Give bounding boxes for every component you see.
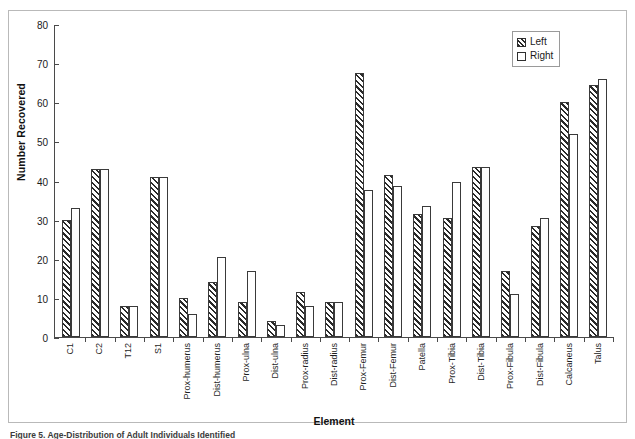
y-axis-tick: 10: [54, 299, 59, 300]
bar-left[interactable]: [238, 302, 247, 337]
bar-left[interactable]: [62, 220, 71, 337]
x-axis-label-cell: T12: [114, 341, 143, 419]
bar-right[interactable]: [334, 302, 343, 337]
bar-right[interactable]: [305, 306, 314, 337]
y-axis-tick: 30: [54, 221, 59, 222]
bar-right[interactable]: [159, 177, 168, 337]
bar-left[interactable]: [91, 169, 100, 337]
x-axis-title: Element: [54, 415, 614, 427]
bar-group: [144, 25, 173, 337]
bar-right[interactable]: [452, 182, 461, 337]
x-axis-label-cell: Prox-ulna: [231, 341, 260, 419]
bar-group: [291, 25, 320, 337]
bar-group: [349, 25, 378, 337]
x-axis-label: Patella: [418, 343, 427, 371]
bar-group: [437, 25, 466, 337]
x-axis-label-cell: Patella: [408, 341, 437, 419]
legend-item-left: Left: [517, 35, 553, 49]
bar-right[interactable]: [71, 208, 80, 337]
legend-swatch-left-icon: [517, 38, 526, 47]
bar-group: [584, 25, 613, 337]
bar-right[interactable]: [188, 314, 197, 337]
y-axis-tick-label: 40: [37, 178, 48, 188]
x-axis-label: C2: [95, 343, 104, 355]
x-axis-labels: C1C2T12S1Prox-humerusDist-humerusProx-ul…: [54, 341, 614, 419]
bar-group: [56, 25, 85, 337]
bar-right[interactable]: [364, 190, 373, 337]
x-axis-label-cell: S1: [143, 341, 172, 419]
bar-left[interactable]: [208, 282, 217, 337]
bar-left[interactable]: [120, 306, 129, 337]
bar-right[interactable]: [393, 186, 402, 337]
bar-left[interactable]: [296, 292, 305, 337]
y-axis-tick: 20: [54, 260, 59, 261]
legend-label-left: Left: [530, 37, 547, 47]
bar-right[interactable]: [129, 306, 138, 337]
x-axis-label: Dist-humerus: [212, 343, 221, 397]
x-axis-label: T12: [124, 343, 133, 359]
bar-left[interactable]: [413, 214, 422, 337]
y-axis-tick-label: 30: [37, 217, 48, 227]
y-axis-tick-label: 10: [37, 295, 48, 305]
bar-groups: [55, 25, 614, 337]
bar-left[interactable]: [560, 102, 569, 337]
x-axis-label-cell: Dist-Tibia: [466, 341, 495, 419]
bar-right[interactable]: [247, 271, 256, 338]
y-axis-tick-label: 60: [37, 99, 48, 109]
bar-group: [554, 25, 583, 337]
bar-right[interactable]: [598, 79, 607, 337]
x-axis-label-cell: Dist-ulna: [261, 341, 290, 419]
bar-left[interactable]: [472, 167, 481, 337]
bar-right[interactable]: [481, 167, 490, 337]
bar-left[interactable]: [150, 177, 159, 337]
y-axis-tick-label: 20: [37, 256, 48, 266]
bar-right[interactable]: [540, 218, 549, 337]
chart-frame: Number Recovered 01020304050607080 C1C2T…: [8, 10, 627, 423]
y-axis-tick: 0: [54, 338, 59, 339]
x-axis-label: Dist-Fibula: [535, 343, 544, 386]
bar-left[interactable]: [589, 85, 598, 337]
bar-left[interactable]: [179, 298, 188, 337]
legend-item-right: Right: [517, 49, 553, 63]
bar-group: [466, 25, 495, 337]
chart-screenshot: Number Recovered 01020304050607080 C1C2T…: [0, 0, 635, 439]
bar-group: [525, 25, 554, 337]
x-axis-label: Prox-humerus: [183, 343, 192, 400]
x-axis-label-cell: Dist-radius: [319, 341, 348, 419]
plot-area: 01020304050607080: [54, 25, 614, 338]
y-axis-tick: 70: [54, 64, 59, 65]
bar-right[interactable]: [422, 206, 431, 337]
bar-group: [378, 25, 407, 337]
x-axis-label: Prox-Femur: [359, 343, 368, 391]
x-axis-label-cell: Prox-radius: [290, 341, 319, 419]
bar-right[interactable]: [569, 134, 578, 337]
y-axis-tick: 40: [54, 182, 59, 183]
bar-left[interactable]: [325, 302, 334, 337]
y-axis-tick-label: 80: [37, 21, 48, 31]
bar-right[interactable]: [217, 257, 226, 337]
legend-swatch-right-icon: [517, 52, 526, 61]
x-axis-label-cell: Prox-Tibia: [437, 341, 466, 419]
x-axis-label-cell: Talus: [584, 341, 613, 419]
bar-group: [496, 25, 525, 337]
bar-left[interactable]: [355, 73, 364, 337]
bar-left[interactable]: [384, 175, 393, 337]
y-axis-tick-label: 70: [37, 60, 48, 70]
y-axis-title: Number Recovered: [15, 83, 27, 181]
bar-right[interactable]: [510, 294, 519, 337]
bar-group: [320, 25, 349, 337]
bar-left[interactable]: [443, 218, 452, 337]
bar-left[interactable]: [501, 271, 510, 338]
legend[interactable]: Left Right: [512, 31, 560, 67]
bar-right[interactable]: [100, 169, 109, 337]
y-axis-tick: 50: [54, 142, 59, 143]
bar-group: [203, 25, 232, 337]
bar-left[interactable]: [531, 226, 540, 338]
x-axis-label: Prox-ulna: [241, 343, 250, 382]
bar-right[interactable]: [276, 325, 285, 337]
bar-group: [85, 25, 114, 337]
x-axis-label-cell: Dist-Femur: [378, 341, 407, 419]
bar-group: [261, 25, 290, 337]
x-axis-label-cell: Prox-Femur: [349, 341, 378, 419]
bar-left[interactable]: [267, 321, 276, 337]
